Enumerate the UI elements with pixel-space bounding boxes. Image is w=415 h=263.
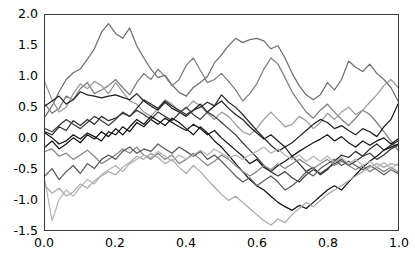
y-axis-tick-label: 0.0 bbox=[0, 132, 38, 145]
y-axis-tick-label: 2.0 bbox=[0, 8, 38, 21]
x-axis-tick-label: 1.0 bbox=[389, 237, 409, 250]
chart-figure: 2.01.51.00.50.0-0.5-1.0-1.50.00.20.40.60… bbox=[0, 0, 415, 263]
x-axis-tick-label: 0.4 bbox=[176, 237, 196, 250]
y-axis-tick-label: -1.0 bbox=[0, 194, 38, 207]
line-series bbox=[45, 24, 398, 117]
y-axis-tick-label: 1.0 bbox=[0, 70, 38, 83]
x-axis-tick-label: 0.8 bbox=[318, 237, 338, 250]
x-axis-tick-label: 0.6 bbox=[247, 237, 267, 250]
y-axis-tick-label: 0.5 bbox=[0, 101, 38, 114]
plot-area bbox=[44, 14, 399, 231]
line-series bbox=[45, 80, 398, 135]
line-series bbox=[45, 107, 398, 182]
x-axis-tick-label: 0.0 bbox=[34, 237, 54, 250]
x-axis-tick-label: 0.2 bbox=[105, 237, 125, 250]
y-axis-tick-label: -0.5 bbox=[0, 163, 38, 176]
line-series-svg bbox=[45, 15, 398, 230]
y-axis-tick-label: 1.5 bbox=[0, 39, 38, 52]
y-axis-tick-label: -1.5 bbox=[0, 225, 38, 238]
